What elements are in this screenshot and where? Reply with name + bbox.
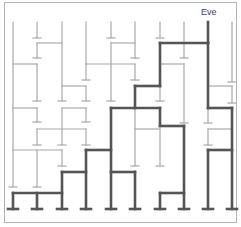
ladder-diagram [0, 0, 241, 227]
start-label-eve: Eve [201, 7, 217, 17]
thin-ladder-lines [13, 22, 232, 187]
highlighted-path [13, 22, 232, 209]
